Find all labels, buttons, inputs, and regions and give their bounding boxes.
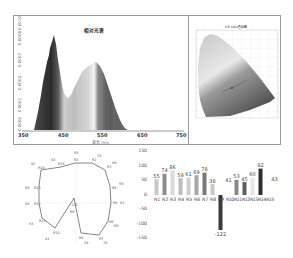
bar-category: R13: [250, 197, 258, 202]
bar-category: R3: [170, 197, 176, 202]
bar-r4: [179, 178, 183, 195]
bar-category: R12: [242, 197, 250, 202]
bar-value: 92: [254, 162, 268, 168]
bar-category: R14: [258, 197, 266, 202]
bar-category: R1: [154, 197, 160, 202]
bar-value: 38: [206, 178, 220, 184]
bar-value: 86: [166, 164, 180, 170]
bar-category: R6: [194, 197, 200, 202]
bar-value: -122: [214, 231, 228, 237]
bar-value: 60: [246, 171, 260, 177]
bar-category: R7: [202, 197, 208, 202]
bar-r5: [187, 178, 191, 196]
bar-category: R4: [178, 197, 184, 202]
bar-r12: [243, 182, 247, 195]
bar-r1: [155, 179, 159, 195]
bar-category: R5: [186, 197, 192, 202]
bar-category: R11: [234, 197, 242, 202]
bar-value: 78: [198, 166, 212, 172]
bar-category: R8: [210, 197, 216, 202]
bar-value: 55: [150, 173, 164, 179]
bar-category: R2: [162, 197, 168, 202]
bar-category: R15: [266, 197, 274, 202]
bar-r6: [195, 175, 199, 195]
bar-r8: [211, 184, 215, 195]
bar-value: 43: [268, 176, 282, 182]
bar-category: R9: [218, 197, 224, 202]
bar-r10: [227, 183, 231, 195]
bar-r15: [267, 183, 271, 195]
bar-plot: [0, 0, 293, 258]
bar-category: R10: [226, 197, 234, 202]
